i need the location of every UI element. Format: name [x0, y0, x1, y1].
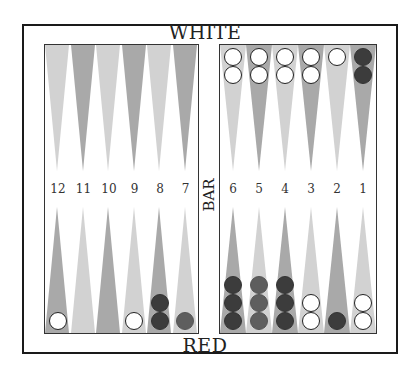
point-number-9: 9	[122, 182, 148, 196]
top-point-left-4[interactable]	[122, 45, 146, 171]
top-point-left-5[interactable]	[147, 45, 171, 171]
white-checker[interactable]	[49, 312, 67, 330]
top-point-left-3[interactable]	[96, 45, 120, 171]
red-checker[interactable]	[250, 276, 268, 294]
bar[interactable]: BAR	[200, 170, 218, 220]
white-checker[interactable]	[250, 48, 268, 66]
white-checker[interactable]	[276, 48, 294, 66]
white-checker[interactable]	[354, 312, 372, 330]
point-number-4: 4	[272, 182, 298, 196]
point-number-5: 5	[246, 182, 272, 196]
white-checker[interactable]	[302, 312, 320, 330]
red-side-label: RED	[0, 334, 410, 356]
red-checker[interactable]	[276, 276, 294, 294]
red-checker[interactable]	[151, 312, 169, 330]
bottom-point-left-3[interactable]	[96, 207, 120, 333]
red-checker[interactable]	[224, 276, 242, 294]
red-checker[interactable]	[250, 294, 268, 312]
red-checker[interactable]	[354, 66, 372, 84]
point-number-11: 11	[71, 182, 97, 196]
red-checker[interactable]	[224, 312, 242, 330]
point-number-12: 12	[45, 182, 71, 196]
top-point-left-1[interactable]	[45, 45, 69, 171]
white-checker[interactable]	[224, 48, 242, 66]
red-checker[interactable]	[151, 294, 169, 312]
white-checker[interactable]	[354, 294, 372, 312]
point-number-8: 8	[147, 182, 173, 196]
red-checker[interactable]	[276, 294, 294, 312]
white-checker[interactable]	[302, 294, 320, 312]
red-checker[interactable]	[328, 312, 346, 330]
point-number-3: 3	[298, 182, 324, 196]
red-checker[interactable]	[250, 312, 268, 330]
white-checker[interactable]	[250, 66, 268, 84]
bottom-point-left-2[interactable]	[71, 207, 95, 333]
white-checker[interactable]	[276, 66, 294, 84]
point-number-6: 6	[220, 182, 246, 196]
point-number-1: 1	[350, 182, 376, 196]
white-checker[interactable]	[302, 66, 320, 84]
red-checker[interactable]	[224, 294, 242, 312]
white-checker[interactable]	[302, 48, 320, 66]
top-point-left-6[interactable]	[173, 45, 197, 171]
white-side-label: WHITE	[0, 21, 410, 43]
red-checker[interactable]	[354, 48, 372, 66]
top-point-left-2[interactable]	[71, 45, 95, 171]
white-checker[interactable]	[224, 66, 242, 84]
point-number-10: 10	[96, 182, 122, 196]
point-number-2: 2	[324, 182, 350, 196]
bar-label: BAR	[200, 178, 218, 211]
red-checker[interactable]	[276, 312, 294, 330]
point-number-7: 7	[173, 182, 199, 196]
white-checker[interactable]	[328, 48, 346, 66]
